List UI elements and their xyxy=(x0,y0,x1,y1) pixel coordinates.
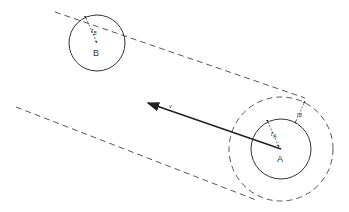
body-b-label: B xyxy=(93,48,99,58)
radius-a-label: rA xyxy=(271,130,277,139)
diagram-svg: rB B rB rA A v xyxy=(0,0,349,212)
radius-b-label: rB xyxy=(91,27,97,36)
collision-tube-lower xyxy=(16,107,256,200)
collision-cylinder-diagram: rB B rB rA A v xyxy=(0,0,349,212)
velocity-label: v xyxy=(169,103,173,109)
body-a-label: A xyxy=(277,154,283,164)
